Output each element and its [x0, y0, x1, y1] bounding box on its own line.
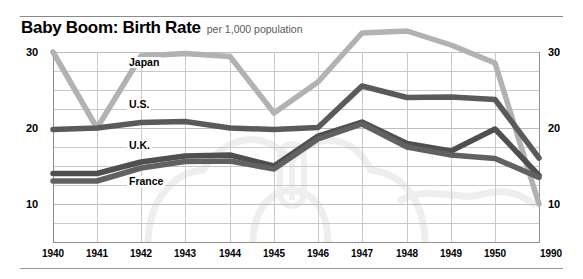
- x-tick-1942: 1942: [121, 248, 161, 259]
- x-tick-1990: 1990: [528, 248, 574, 259]
- series-label-us: U.S.: [127, 99, 151, 110]
- page-title: Baby Boom: Birth Rate: [21, 19, 201, 37]
- x-tick-1945: 1945: [254, 248, 294, 259]
- x-tick-1944: 1944: [210, 248, 250, 259]
- y-tick-right-10: 10: [548, 199, 560, 210]
- y-tick-left-30: 30: [26, 47, 38, 58]
- series-label-japan: Japan: [127, 57, 161, 68]
- series-label-uk: U.K.: [127, 140, 152, 151]
- x-tick-1948: 1948: [387, 248, 427, 259]
- chart-title-block: Baby Boom: Birth Rate per 1,000 populati…: [21, 19, 303, 37]
- series-line-france: [53, 124, 539, 181]
- footer-divider: [20, 268, 563, 269]
- x-axis-line: [53, 242, 540, 243]
- x-tick-1941: 1941: [77, 248, 117, 259]
- series-label-france: France: [127, 176, 165, 187]
- x-tick-1940: 1940: [33, 248, 73, 259]
- y-tick-right-30: 30: [548, 47, 560, 58]
- series-line-japan: [53, 31, 539, 204]
- x-tick-1947: 1947: [342, 248, 382, 259]
- y-tick-right-20: 20: [548, 123, 560, 134]
- chart-subtitle: per 1,000 population: [207, 23, 303, 35]
- x-tick-1949: 1949: [431, 248, 471, 259]
- header-divider-top: [20, 16, 563, 17]
- x-tick-1946: 1946: [298, 248, 338, 259]
- y-tick-left-20: 20: [26, 123, 38, 134]
- y-tick-left-10: 10: [26, 199, 38, 210]
- plot-area: Japan U.S. U.K. France: [53, 52, 540, 242]
- x-tick-1943: 1943: [165, 248, 205, 259]
- chart-page: Baby Boom: Birth Rate per 1,000 populati…: [0, 0, 583, 279]
- x-tick-1950: 1950: [475, 248, 515, 259]
